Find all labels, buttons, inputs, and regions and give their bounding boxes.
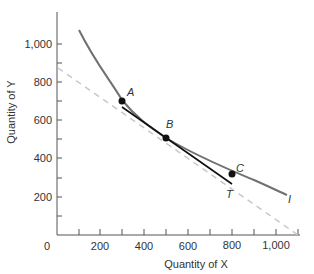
y-axis-title: Quantity of Y [5,80,17,144]
y-tick-label: 1,000 [24,38,52,50]
x-axis-title: Quantity of X [164,258,228,270]
point-c [229,171,236,178]
indifference-curve-chart: 1,000 800 600 400 200 0 200 400 600 800 … [0,0,314,274]
x-tick-label: 400 [135,240,153,252]
x-axis-ticks [79,229,298,235]
budget-line [58,68,298,235]
x-tick-label: 600 [179,240,197,252]
x-tick-label: 1,000 [262,239,290,251]
label-i: I [288,193,291,205]
y-tick-label: 400 [34,152,52,164]
chart-svg: 1,000 800 600 400 200 0 200 400 600 800 … [0,0,314,274]
label-a: A [126,86,134,98]
y-tick-label: 600 [34,114,52,126]
origin-label: 0 [44,240,50,252]
indifference-curve [79,30,287,195]
label-b: B [166,118,173,130]
y-tick-label: 200 [34,191,52,203]
point-b [163,135,170,142]
tangent-line [122,107,232,184]
x-tick-label: 800 [223,239,241,251]
point-a [119,98,126,105]
label-c: C [236,162,244,174]
x-tick-label: 200 [91,240,109,252]
y-tick-label: 800 [34,76,52,88]
